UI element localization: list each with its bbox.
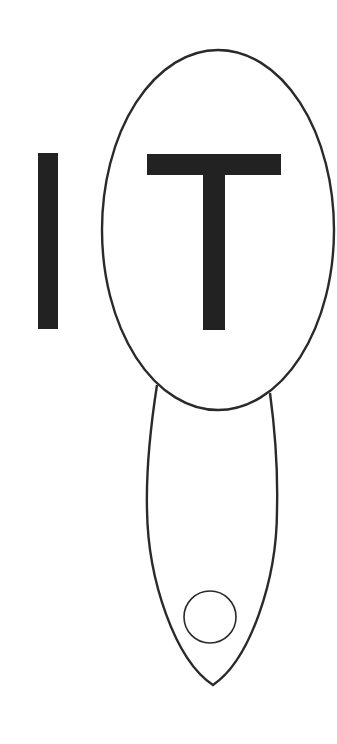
- diagram-canvas: [0, 0, 337, 744]
- letter-i-glyph: [38, 153, 58, 329]
- small-circle-shape: [184, 591, 236, 643]
- letter-t-glyph: [147, 154, 281, 330]
- handle-lobe-shape: [147, 385, 277, 685]
